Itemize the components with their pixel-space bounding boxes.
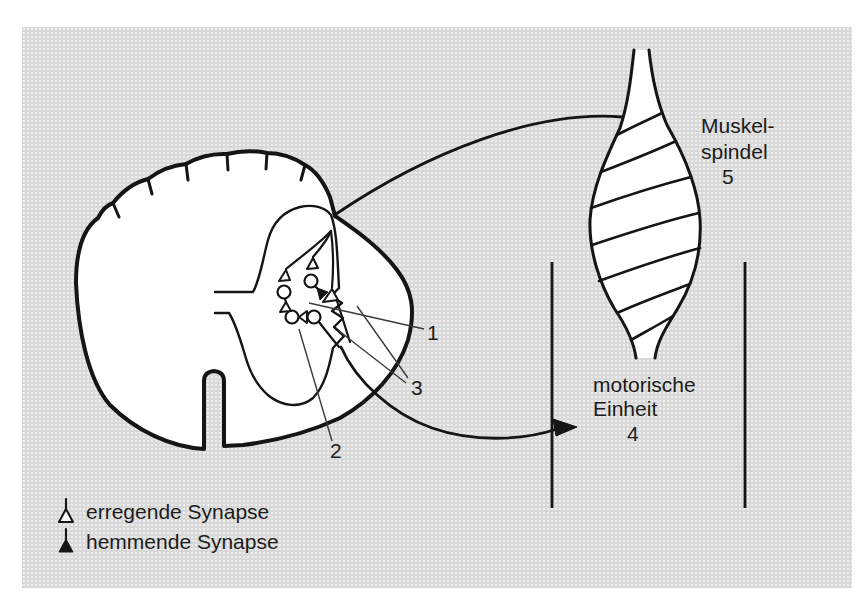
pointer-label-3: 3 bbox=[411, 376, 423, 399]
efferent-arrowhead-icon bbox=[553, 419, 577, 436]
interneuron-soma bbox=[286, 311, 299, 324]
legend: erregende Synapse hemmende Synapse bbox=[59, 499, 279, 553]
interneuron-soma bbox=[278, 286, 291, 299]
muscle-spindle-label-line1: Muskel- bbox=[701, 114, 775, 137]
legend-inhibitory-label: hemmende Synapse bbox=[86, 530, 279, 553]
motor-unit-label-line1: motorische bbox=[593, 373, 696, 396]
excitatory-synapse-legend-icon bbox=[59, 509, 73, 522]
figure: 1 2 3 Muskel- spindel 5 motorische Einhe… bbox=[0, 0, 857, 612]
diagram-svg: 1 2 3 Muskel- spindel 5 motorische Einhe… bbox=[0, 0, 857, 612]
pointer-label-2: 2 bbox=[330, 439, 342, 462]
afferent-fiber bbox=[331, 116, 622, 231]
motor-unit-label-line2: Einheit bbox=[593, 397, 657, 420]
inhibitory-synapse-legend-icon bbox=[59, 539, 73, 552]
pointer-label-1: 1 bbox=[427, 321, 439, 344]
muscle-spindle-fill bbox=[590, 50, 700, 358]
legend-excitatory-label: erregende Synapse bbox=[86, 500, 269, 523]
motor-unit-number: 4 bbox=[627, 422, 639, 445]
muscle-spindle-number: 5 bbox=[722, 165, 734, 188]
muscle-spindle-label-line2: spindel bbox=[701, 140, 768, 163]
